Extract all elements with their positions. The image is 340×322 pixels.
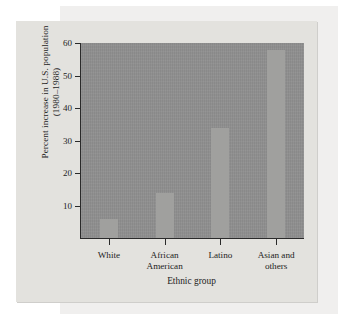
- x-axis-label: Asian andothers: [248, 250, 304, 271]
- x-axis-label-line: Latino: [193, 250, 249, 261]
- x-axis-tick: [109, 238, 110, 245]
- y-axis-tick: 50: [75, 76, 81, 77]
- bar: [156, 193, 174, 239]
- x-axis-label-line: others: [248, 261, 304, 272]
- figure-screenshot: Percent increase in U.S. population (198…: [0, 0, 340, 322]
- y-axis-tick: 60: [75, 43, 81, 44]
- x-axis-label: Latino: [193, 250, 249, 261]
- x-axis-label-line: African: [137, 250, 193, 261]
- y-axis-tick-label: 40: [63, 103, 72, 113]
- y-axis-tick-label: 10: [63, 201, 72, 211]
- x-axis-label: White: [81, 250, 137, 261]
- bar: [100, 219, 118, 239]
- y-axis-title: Percent increase in U.S. population (198…: [40, 0, 62, 187]
- x-axis-tick: [276, 238, 277, 245]
- x-axis-label-line: White: [81, 250, 137, 261]
- bar: [267, 50, 285, 239]
- y-axis-title-line2: (1980–1988): [51, 0, 62, 187]
- y-axis-tick: 30: [75, 141, 81, 142]
- y-axis-tick-label: 50: [63, 71, 72, 81]
- y-axis-title-line1: Percent increase in U.S. population: [40, 25, 50, 158]
- y-axis-tick-label: 20: [63, 168, 72, 178]
- bar: [211, 128, 229, 239]
- x-axis-label: AfricanAmerican: [137, 250, 193, 271]
- y-axis-tick: 20: [75, 173, 81, 174]
- bar-chart: Percent increase in U.S. population (198…: [16, 21, 317, 302]
- figure-card: Percent increase in U.S. population (198…: [16, 21, 317, 302]
- y-axis-tick-label: 60: [63, 38, 72, 48]
- x-axis-label-line: Asian and: [248, 250, 304, 261]
- y-axis-tick-label: 30: [63, 136, 72, 146]
- y-axis-tick: 40: [75, 108, 81, 109]
- x-axis-tick: [165, 238, 166, 245]
- plot-area: 102030405060WhiteAfricanAmericanLatinoAs…: [80, 43, 304, 239]
- x-axis-tick: [220, 238, 221, 245]
- x-axis-label-line: American: [137, 261, 193, 272]
- x-axis-title: Ethnic group: [80, 276, 303, 286]
- y-axis-tick: 10: [75, 206, 81, 207]
